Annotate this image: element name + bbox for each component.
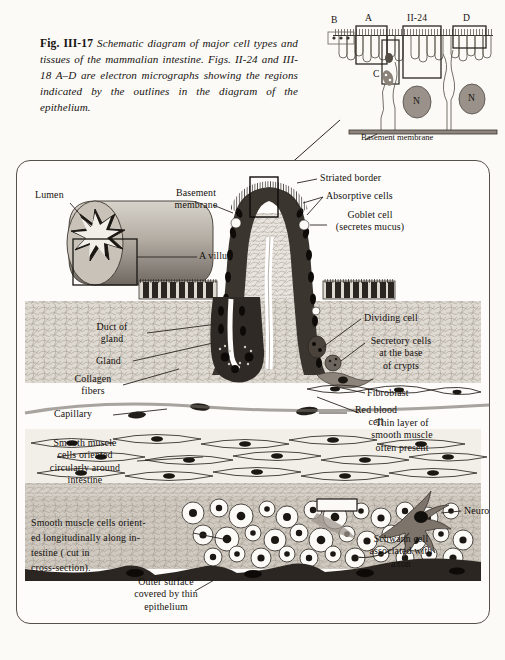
label-a-villus: A villus <box>199 250 231 262</box>
adjacent-epithelium-left <box>139 279 217 299</box>
inset-label-c: C <box>373 68 380 79</box>
goblet-cell-right <box>299 220 309 230</box>
adjacent-epithelium-right <box>323 279 395 299</box>
figure-number: Fig. III-17 <box>40 37 93 50</box>
label-dividing-cell: Dividing cell <box>364 312 418 324</box>
inset-label-b: B <box>331 14 338 25</box>
capillary-vessel <box>25 404 489 413</box>
inset-nucleus-label-1: N <box>413 95 420 106</box>
label-outer-surface: Outer surface covered by thin epithelium <box>117 576 215 613</box>
microvilli-band <box>333 29 493 35</box>
label-red-blood-cell: Red blood cell <box>344 404 408 429</box>
inset-goblet-cell <box>381 53 396 87</box>
label-basement-membrane: Basement membrane <box>163 187 229 212</box>
label-striated-border: Striated border <box>320 172 381 184</box>
label-gland: Gland <box>96 355 121 367</box>
figure-caption: Fig. III-17 Schematic diagram of major c… <box>40 36 298 115</box>
label-absorptive-cells: Absorptive cells <box>326 190 393 202</box>
epithelium-detail-inset: B A II-24 D C N N Basement membrane <box>325 6 503 146</box>
label-neuron: Neuron <box>464 505 490 517</box>
inset-basement-membrane-label: Basement membrane <box>361 132 433 142</box>
label-goblet-cell: Goblet cell (secretes mucus) <box>323 209 417 234</box>
figure-page: Fig. III-17 Schematic diagram of major c… <box>0 0 505 660</box>
label-secretory-cells: Secretory cells at the base of crypts <box>358 335 444 372</box>
goblet-cell-left <box>231 218 241 228</box>
label-circular-muscle: Smooth muscle cells oriented circularly … <box>29 437 141 487</box>
inset-label-ii24: II-24 <box>407 12 427 23</box>
label-lumen: Lumen <box>35 189 64 201</box>
inset-nucleus-label-2: N <box>468 92 475 103</box>
axon-bundle-box <box>317 499 357 511</box>
label-duct-of-gland: Duct of gland <box>79 321 145 346</box>
inset-label-a: A <box>365 12 372 23</box>
label-fibroblast: Fibroblast <box>367 387 409 399</box>
intestine-cross-section <box>67 201 213 285</box>
inset-drawing <box>325 6 503 146</box>
inset-label-d: D <box>463 12 470 23</box>
label-longitudinal-muscle: Smooth muscle cells orient- ed longitudi… <box>31 516 197 575</box>
label-collagen-fibers: Collagen fibers <box>63 373 123 398</box>
label-capillary: Capillary <box>54 408 92 420</box>
secretory-cells-right <box>325 355 341 371</box>
gland-crypt <box>210 297 264 383</box>
intestine-diagram-panel: Lumen A villus Basement membrane Striate… <box>16 160 490 624</box>
label-schwann-cell: Schwann cell associated with axon <box>353 533 449 570</box>
